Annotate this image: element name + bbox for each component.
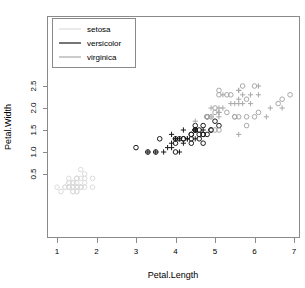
x-tick-label: 2 [94,247,99,256]
x-tick-label: 5 [213,247,218,256]
x-tick-label: 6 [252,247,257,256]
x-tick-label: 3 [134,247,139,256]
y-tick-label: 2.0 [29,102,38,114]
y-tick-label: 2.5 [29,80,38,92]
x-tick-label: 4 [173,247,178,256]
y-tick-label: 1.5 [29,124,38,136]
y-tick-label: 1.0 [29,146,38,158]
y-tick-label: 0.5 [29,168,38,180]
x-axis-title: Petal.Length [148,270,199,280]
y-axis-title: Petal.Width [3,104,13,150]
x-tick-label: 7 [292,247,297,256]
figure-background [0,0,305,288]
scatter-plot-figure: 1234567 0.51.01.52.02.5 Petal.Length Pet… [0,0,305,288]
legend-label-setosa: setosa [87,25,111,34]
legend-label-versicolor: versicolor [87,39,122,48]
legend-label-virginica: virginica [87,53,117,62]
x-tick-label: 1 [55,247,60,256]
plot-legend: setosa versicolor virginica [53,19,136,68]
plot-canvas: 1234567 0.51.01.52.02.5 Petal.Length Pet… [0,0,305,288]
